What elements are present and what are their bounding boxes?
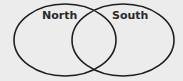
set-south-label: South: [112, 10, 148, 21]
set-north-label: North: [42, 10, 77, 21]
venn-diagram: North South: [0, 0, 183, 81]
venn-shapes: [0, 0, 183, 81]
